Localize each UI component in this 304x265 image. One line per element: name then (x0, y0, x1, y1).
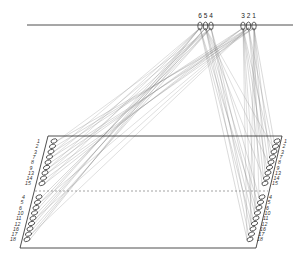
thread-diagram: 123456 123789131415456101112161718 12378… (0, 0, 304, 265)
right-loop-15 (261, 180, 268, 186)
loop-label: 15 (25, 180, 31, 186)
top-loop-label: 6 (198, 12, 202, 19)
right-loop-12 (251, 221, 258, 227)
right-loop-3 (270, 149, 277, 155)
left-loop-12 (28, 221, 35, 227)
top-loop-label: 3 (241, 12, 245, 19)
right-loop-1 (273, 138, 280, 144)
top-loop-label: 2 (247, 12, 251, 19)
right-loop-18 (246, 236, 253, 242)
right-loop-9 (266, 165, 273, 171)
left-loop-9 (43, 165, 50, 171)
left-loop-8 (44, 159, 51, 165)
right-loop-5 (257, 199, 264, 205)
left-loop-5 (34, 199, 41, 205)
loop-label: 18 (10, 236, 16, 242)
right-loop-13 (264, 170, 271, 176)
right-loop-4 (258, 194, 265, 200)
top-loop-label: 5 (204, 12, 208, 19)
right-loop-6 (255, 205, 262, 211)
left-loop-6 (32, 205, 39, 211)
right-loop-17 (248, 231, 255, 237)
right-loop-16 (249, 226, 256, 232)
right-loop-11 (252, 215, 259, 221)
left-loop-2 (49, 143, 56, 149)
right-loop-14 (263, 175, 270, 181)
loop-label: 15 (272, 180, 278, 186)
left-loop-15 (38, 180, 45, 186)
left-loop-16 (26, 226, 33, 232)
left-loop-18 (23, 236, 30, 242)
right-loop-10 (254, 210, 261, 216)
left-loop-column: 123789131415456101112161718 (10, 138, 58, 242)
left-loop-13 (41, 170, 48, 176)
right-loop-7 (269, 154, 276, 160)
loop-label: 18 (257, 236, 263, 242)
top-loops: 123456 (198, 12, 256, 30)
left-loop-14 (40, 175, 47, 181)
left-loop-7 (46, 154, 53, 160)
right-loop-8 (267, 159, 274, 165)
left-loop-10 (31, 210, 38, 216)
left-loop-17 (25, 231, 32, 237)
left-loop-4 (35, 194, 42, 200)
top-loop-label: 1 (252, 12, 256, 19)
left-loop-1 (50, 138, 57, 144)
left-loop-3 (47, 149, 54, 155)
top-loop-label: 4 (209, 12, 213, 19)
right-loop-2 (272, 143, 279, 149)
left-loop-11 (29, 215, 36, 221)
thread-lines (30, 28, 274, 239)
